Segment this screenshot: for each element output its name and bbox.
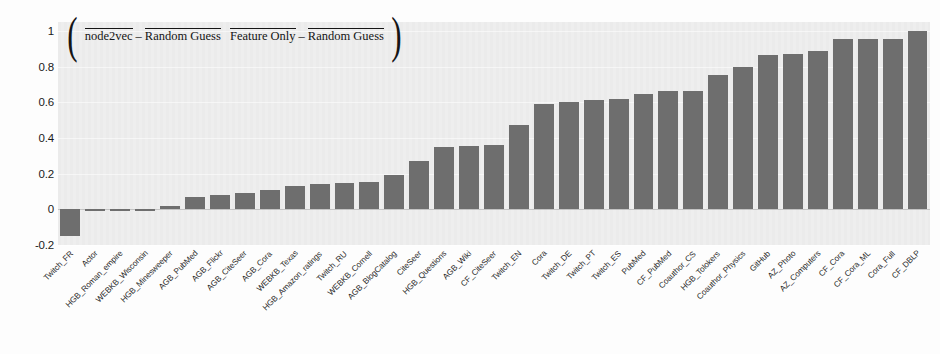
bar — [634, 94, 654, 209]
bar — [584, 100, 604, 210]
bar — [285, 186, 305, 209]
bar — [658, 91, 678, 210]
bar — [335, 183, 355, 209]
bar — [185, 197, 205, 209]
bar — [609, 99, 629, 210]
close-paren: ) — [391, 14, 401, 57]
bar — [210, 195, 230, 209]
bar — [310, 184, 330, 209]
bar — [85, 209, 105, 211]
denominator-left-term: Feature Only — [230, 28, 296, 44]
bar — [883, 39, 903, 209]
bar — [459, 146, 479, 209]
fraction-numerator: node2vec–Random Guess — [82, 29, 224, 43]
numerator-right-term: Random Guess — [145, 28, 221, 44]
y-tick-label: 0 — [48, 203, 54, 215]
open-paren: ( — [67, 14, 77, 57]
bar — [484, 145, 504, 209]
bar — [384, 175, 404, 210]
bar — [708, 75, 728, 210]
bar — [359, 182, 379, 210]
bar — [260, 190, 280, 210]
ratio-fraction: node2vec–Random Guess Feature Only–Rando… — [81, 28, 388, 44]
denominator-minus: – — [296, 29, 308, 43]
bar — [758, 55, 778, 209]
x-tick-label: Coauthor_Physics — [695, 249, 747, 301]
x-axis-labels: Twitch_FRActorHGB_Roman_empireWEBKB_Wisc… — [58, 247, 930, 352]
gridline — [58, 245, 930, 246]
bar — [110, 209, 130, 210]
y-tick-label: 0.2 — [39, 168, 54, 180]
y-tick-label: 0.6 — [39, 96, 54, 108]
bar — [409, 161, 429, 209]
y-tick-label: 0.8 — [39, 61, 54, 73]
bar — [160, 206, 180, 210]
bar — [683, 91, 703, 210]
y-tick-label: -0.2 — [35, 239, 54, 251]
x-tick-label: Twitch_FR — [42, 249, 75, 282]
chart-title-formula: ( node2vec–Random Guess Feature Only–Ran… — [64, 14, 405, 57]
bar — [60, 209, 80, 236]
bar — [434, 147, 454, 209]
x-tick-label: Cora — [530, 249, 549, 268]
y-tick-label: 1 — [48, 25, 54, 37]
x-tick-label: Actor — [80, 249, 100, 269]
bar — [135, 209, 155, 210]
denominator-right-term: Random Guess — [308, 28, 384, 44]
bar — [783, 54, 803, 209]
numerator-left-term: node2vec — [85, 28, 133, 44]
bar — [858, 39, 878, 209]
bar — [733, 67, 753, 210]
bar — [534, 104, 554, 209]
y-tick-label: 0.4 — [39, 132, 54, 144]
fraction-denominator: Feature Only–Random Guess — [227, 29, 387, 43]
numerator-minus: – — [133, 29, 145, 43]
bar — [908, 31, 928, 209]
chart-root: ( node2vec–Random Guess Feature Only–Ran… — [0, 0, 940, 354]
bar — [808, 51, 828, 209]
bar — [235, 193, 255, 209]
bar — [559, 102, 579, 209]
bar — [833, 39, 853, 209]
bar — [509, 125, 529, 209]
